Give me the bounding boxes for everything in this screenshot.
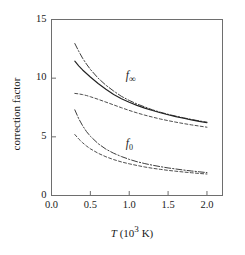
curve-label: f0: [126, 137, 133, 152]
x-axis-unit: (103 K): [117, 227, 153, 239]
curve-label: f∞: [126, 69, 136, 84]
y-tick-label: 10: [21, 71, 47, 82]
x-axis-title: T (103 K): [72, 224, 192, 239]
curve-label-subscript: ∞: [129, 74, 136, 84]
x-tick-label: 0.0: [39, 199, 65, 210]
x-axis-symbol: T: [111, 227, 117, 239]
plot-area: [0, 0, 245, 255]
x-tick-label: 1.5: [155, 199, 181, 210]
y-tick-label: 15: [21, 13, 47, 24]
x-tick-label: 1.0: [116, 199, 142, 210]
axis-ticks: [52, 20, 207, 196]
x-tick-label: 0.5: [77, 199, 103, 210]
y-tick-label: 5: [21, 130, 47, 141]
curve-label-subscript: 0: [129, 143, 133, 152]
chart-figure: correction factor T (103 K) 051015 0.00.…: [0, 0, 245, 255]
plot-frame: [52, 20, 223, 196]
x-tick-label: 2.0: [194, 199, 220, 210]
curve-f_inf_solid: [75, 61, 207, 123]
data-curves: [75, 44, 207, 174]
curve-f_inf_dashed: [75, 93, 207, 127]
curve-f_inf_dashdot: [75, 44, 207, 123]
